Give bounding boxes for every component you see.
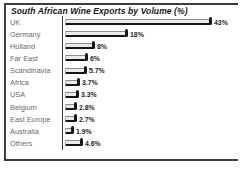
value-label: 18% (130, 31, 144, 38)
chart-row: Far East 6% (10, 52, 238, 64)
value-label: 43% (214, 19, 228, 26)
bar-zone: 6% (62, 52, 238, 64)
bar-zone: 4.6% (62, 137, 238, 149)
bar-zone: 43% (62, 16, 238, 28)
bar (65, 104, 75, 110)
bar-zone: 2.8% (62, 101, 238, 113)
chart-row: Scandinavia 5.7% (10, 65, 238, 77)
value-label: 2.8% (79, 104, 95, 111)
bar (65, 19, 210, 25)
bar-zone: 1.9% (62, 125, 238, 137)
value-label: 6% (90, 55, 100, 62)
bar-end-cap (77, 78, 80, 86)
category-label: UK (10, 18, 62, 27)
bar-zone: 5.7% (62, 65, 238, 77)
bar-zone: 3.7% (62, 77, 238, 89)
category-label: Australia (10, 127, 62, 136)
chart-row: Africa 3.7% (10, 77, 238, 89)
category-label: USA (10, 90, 62, 99)
bottom-rule (4, 159, 238, 161)
value-label: 3.3% (81, 91, 97, 98)
chart-row: UK 43% (10, 16, 238, 28)
bar-zone: 8% (62, 40, 238, 52)
bar-end-cap (71, 126, 74, 134)
bar (65, 92, 77, 98)
bar-end-cap (74, 102, 77, 110)
top-rule (4, 3, 238, 5)
value-label: 3.7% (82, 79, 98, 86)
bar-end-cap (74, 114, 77, 122)
bar (65, 80, 78, 86)
bar-end-cap (76, 90, 79, 98)
bar-end-cap (125, 29, 128, 37)
category-label: Far East (10, 54, 62, 63)
bar (65, 55, 86, 61)
bar-end-cap (84, 66, 87, 74)
left-rule (4, 3, 6, 160)
category-label: Germany (10, 30, 62, 39)
bar-zone: 2.7% (62, 113, 238, 125)
value-label: 4.6% (85, 140, 101, 147)
chart-row: Holland 8% (10, 40, 238, 52)
chart-row: Others 4.6% (10, 137, 238, 149)
category-label: Africa (10, 78, 62, 87)
bar (65, 140, 81, 146)
category-label: Holland (10, 42, 62, 51)
bar (65, 128, 72, 134)
category-label: Scandinavia (10, 66, 62, 75)
chart-row: East Europe 2.7% (10, 113, 238, 125)
bar-zone: 3.3% (62, 89, 238, 101)
bar-end-cap (80, 138, 83, 146)
value-label: 2.7% (79, 116, 95, 123)
bar (65, 116, 75, 122)
value-label: 1.9% (76, 128, 92, 135)
chart-row: USA 3.3% (10, 89, 238, 101)
bar (65, 68, 85, 74)
chart-title: South African Wine Exports by Volume (%) (11, 6, 188, 16)
bar-end-cap (85, 53, 88, 61)
bar-end-cap (209, 17, 212, 25)
value-label: 5.7% (89, 67, 105, 74)
bar (65, 43, 93, 49)
category-label: Others (10, 139, 62, 148)
chart-row: Germany 18% (10, 28, 238, 40)
bar-chart: South African Wine Exports by Volume (%)… (0, 0, 240, 173)
bar-end-cap (92, 41, 95, 49)
category-label: East Europe (10, 115, 62, 124)
category-label: Belgium (10, 103, 62, 112)
chart-row: Belgium 2.8% (10, 101, 238, 113)
bar-zone: 18% (62, 28, 238, 40)
value-label: 8% (97, 43, 107, 50)
chart-row: Australia 1.9% (10, 125, 238, 137)
bar (65, 31, 126, 37)
chart-rows: UK 43% Germany 18% Holland 8% Far East (10, 16, 238, 150)
